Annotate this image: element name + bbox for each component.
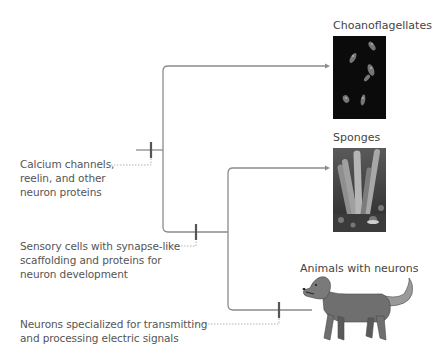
trait-2-line-3: neuron development	[20, 267, 180, 281]
trait-3-line-1: Neurons specialized for transmitting	[20, 317, 207, 331]
trait-2-line-1: Sensory cells with synapse-like	[20, 239, 180, 253]
taxon-label-choanoflagellates: Choanoflagellates	[333, 19, 432, 32]
taxon-label-animals-with-neurons: Animals with neurons	[300, 262, 419, 275]
dog-image	[300, 276, 414, 346]
trait-1-line-2: reelin, and other	[20, 171, 114, 185]
trait-1-line-3: neuron proteins	[20, 185, 114, 199]
taxon-label-sponges: Sponges	[333, 131, 380, 144]
choanoflagellate-image	[333, 36, 386, 119]
trait-3-line-2: and processing electric signals	[20, 331, 207, 345]
trait-1-line-1: Calcium channels,	[20, 157, 114, 171]
trait-label-sensory-cells: Sensory cells with synapse-like scaffold…	[20, 239, 180, 281]
sponge-image	[333, 148, 386, 232]
trait-2-line-2: scaffolding and proteins for	[20, 253, 180, 267]
trait-label-calcium-channels: Calcium channels, reelin, and other neur…	[20, 157, 114, 199]
trait-label-specialized-neurons: Neurons specialized for transmitting and…	[20, 317, 207, 345]
